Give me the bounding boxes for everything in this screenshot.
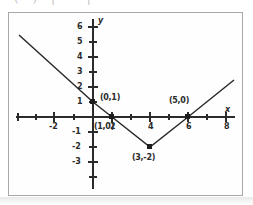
y-tick-label-5: 5 — [77, 38, 83, 46]
point-label-1-0: (1,0) — [94, 123, 114, 131]
point-3-n2 — [147, 144, 152, 149]
cropped-equation-text: ( ) | - | = — [14, 0, 120, 5]
coordinate-plot — [9, 13, 242, 195]
point-1-0 — [109, 114, 114, 119]
y-tick-label-4: 4 — [77, 53, 83, 61]
point-label-3-n2: (3,-2) — [132, 154, 155, 162]
point-label-5-0: (5,0) — [169, 97, 189, 105]
x-tick-label-8: 8 — [224, 123, 230, 131]
point-label-0-1: (0,1) — [100, 94, 120, 102]
x-tick-label-6: 6 — [186, 123, 192, 131]
y-axis-label: y — [98, 17, 103, 25]
y-tick-label-neg1: -1 — [72, 128, 81, 136]
y-tick-label-neg2: -2 — [72, 143, 81, 151]
x-tick-label-neg2: -2 — [49, 123, 58, 131]
point-0-1 — [90, 99, 95, 104]
x-axis-label: x — [225, 106, 230, 114]
point-5-0 — [185, 114, 190, 119]
cropped-equation-strip: ( ) | - | = — [0, 0, 253, 11]
figure-frame: 6 5 4 3 2 1 -1 -2 -3 -2 2 4 6 8 y x (0,1… — [8, 12, 243, 196]
y-tick-label-3: 3 — [77, 68, 83, 76]
y-tick-label-6: 6 — [77, 23, 83, 31]
scan-artifact-band — [0, 197, 253, 205]
y-tick-label-2: 2 — [77, 83, 83, 91]
x-tick-label-4: 4 — [148, 123, 154, 131]
y-tick-label-1: 1 — [77, 98, 83, 106]
y-tick-label-neg3: -3 — [72, 158, 81, 166]
